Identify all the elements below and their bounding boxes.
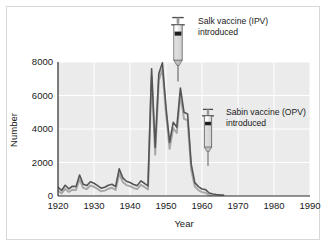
annotation-salk-line2: introduced <box>198 27 238 37</box>
x-tick-label: 1990 <box>299 200 320 211</box>
x-axis-title: Year <box>174 218 193 229</box>
x-tick-label: 1970 <box>227 200 248 211</box>
y-tick-label: 4000 <box>32 123 53 134</box>
x-tick-label: 1960 <box>191 200 212 211</box>
annotation-sabin-line2: introduced <box>226 118 266 128</box>
x-tick-label: 1950 <box>155 200 176 211</box>
x-tick-label: 1940 <box>119 200 140 211</box>
annotation-salk-line1: Salk vaccine (IPV) <box>198 16 268 26</box>
polio-cases-chart: 02000400060008000 1920193019401950196019… <box>0 0 328 248</box>
x-tick-label: 1930 <box>83 200 104 211</box>
annotation-sabin-line1: Sabin vaccine (OPV) <box>226 107 306 117</box>
y-tick-labels: 02000400060008000 <box>32 56 53 201</box>
x-tick-labels: 19201930194019501960197019801990 <box>47 200 320 211</box>
y-tick-label: 8000 <box>32 56 53 67</box>
y-tick-label: 6000 <box>32 90 53 101</box>
x-tick-label: 1920 <box>47 200 68 211</box>
y-axis-title: Number <box>8 113 19 147</box>
chart-svg: 02000400060008000 1920193019401950196019… <box>0 0 328 248</box>
y-tick-label: 2000 <box>32 157 53 168</box>
x-tick-label: 1980 <box>263 200 284 211</box>
